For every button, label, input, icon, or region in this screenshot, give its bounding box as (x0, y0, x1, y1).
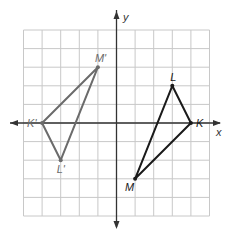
vertex-label: M (125, 181, 135, 193)
arrow-left-icon (10, 120, 18, 126)
triangle-image (42, 67, 98, 160)
vertex-label: L' (57, 163, 66, 175)
arrow-up-icon (114, 11, 120, 19)
coordinate-plane: KLMK'L'M' x y (0, 0, 228, 234)
vertex-point (40, 121, 44, 125)
vertex-label: K' (27, 117, 37, 129)
x-axis-label: x (215, 126, 222, 138)
triangle-preimage (135, 86, 191, 179)
vertex-point (189, 121, 193, 125)
vertex-point (96, 65, 100, 69)
arrow-down-icon (114, 221, 120, 229)
y-axis-label: y (122, 11, 130, 23)
vertex-point (59, 158, 63, 162)
vertex-label: L (170, 71, 176, 83)
vertex-label: M' (95, 52, 107, 64)
vertex-label: K (196, 117, 204, 129)
vertex-point (170, 84, 174, 88)
